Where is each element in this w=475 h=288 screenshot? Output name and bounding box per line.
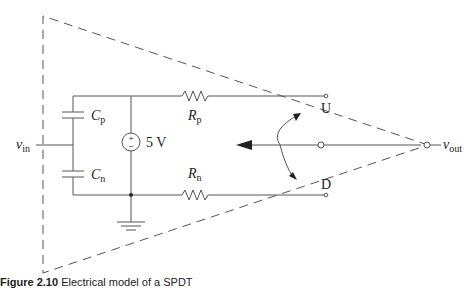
source-value-label: 5 V — [146, 135, 166, 150]
switch-arm — [236, 140, 421, 150]
pivot-circle — [318, 142, 324, 148]
capacitor-cn — [62, 171, 84, 177]
cp-label: Cp — [91, 108, 105, 125]
caption-number: Figure 2.10 — [0, 276, 58, 288]
v-out-label: vout — [443, 137, 462, 154]
figure-caption: Figure 2.10 Electrical model of a SPDT — [0, 276, 193, 288]
spdt-circuit-diagram: vin Cp Cn Rp U + − 5 V Rn D — [0, 0, 475, 288]
rp-label: Rp — [187, 108, 202, 125]
ground-icon — [117, 195, 145, 230]
caption-text: Electrical model of a SPDT — [61, 276, 192, 288]
rn-label: Rn — [187, 166, 202, 183]
output-terminal — [424, 142, 430, 148]
terminal-d-label: D — [321, 177, 331, 192]
svg-text:−: − — [129, 142, 134, 151]
throw-direction-arrow-icon — [277, 113, 301, 180]
capacitor-cp — [62, 112, 84, 118]
resistor-rn — [182, 190, 208, 200]
resistor-rp — [182, 91, 208, 101]
terminal-d — [324, 193, 328, 197]
cn-label: Cn — [91, 167, 105, 184]
terminal-u — [324, 94, 328, 98]
voltage-source-5v: + − — [122, 133, 140, 151]
v-in-label: vin — [16, 137, 30, 154]
arrowhead-left-icon — [236, 140, 252, 150]
terminal-u-label: U — [321, 101, 331, 116]
